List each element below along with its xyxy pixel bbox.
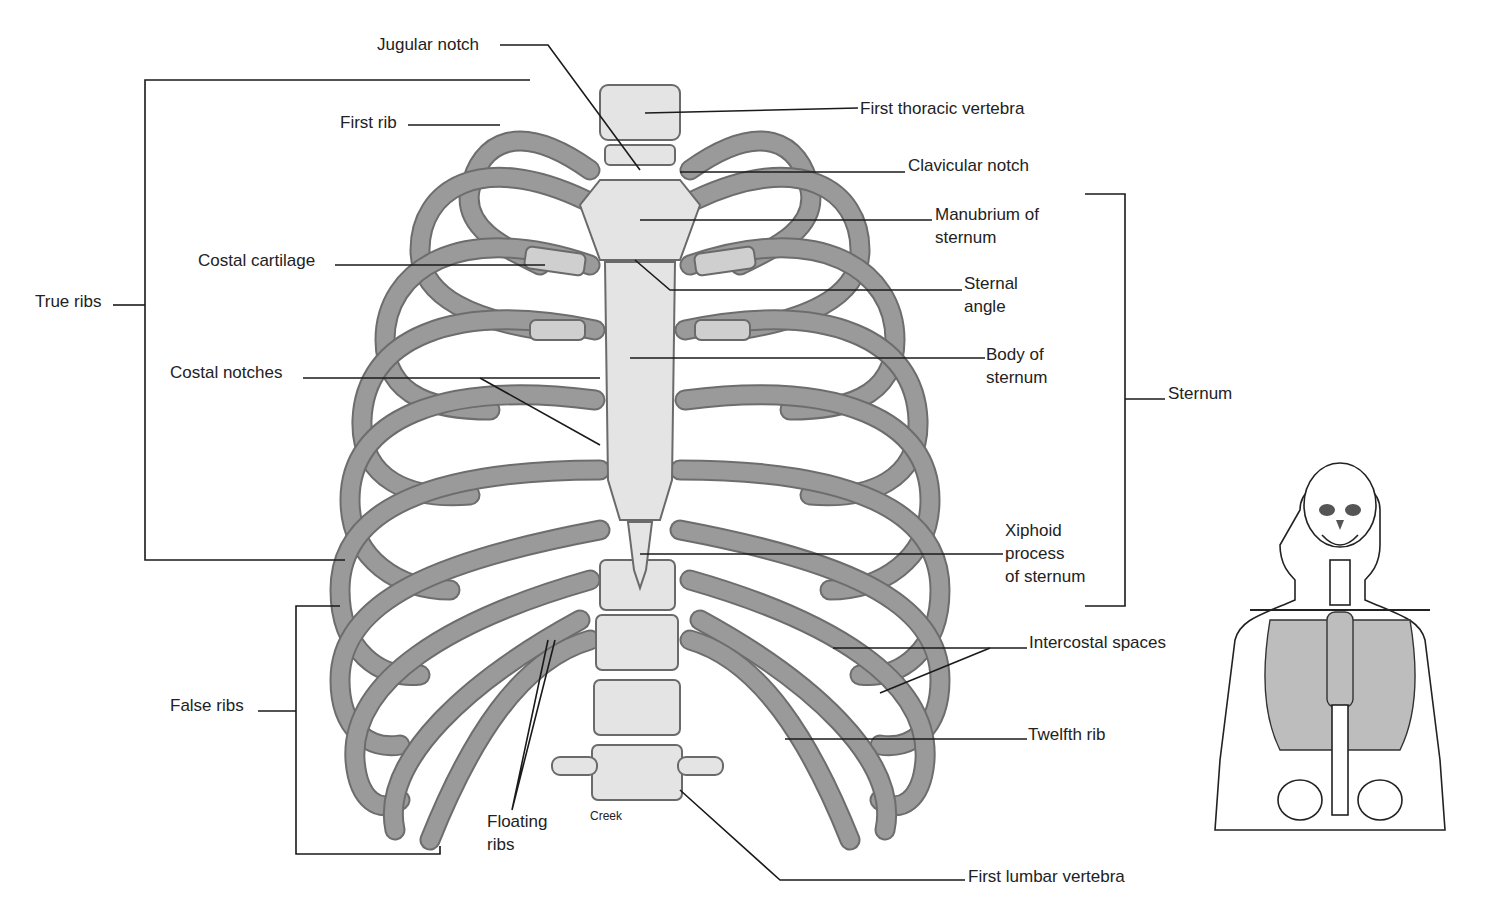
label-sternal-angle: Sternal angle	[964, 272, 1018, 318]
label-line: Manubrium of	[935, 203, 1039, 226]
label-line: of sternum	[1005, 565, 1085, 588]
label-false-ribs: False ribs	[170, 694, 244, 717]
label-line: Body of	[986, 343, 1047, 366]
label-first-rib: First rib	[340, 111, 397, 134]
left-ribs	[340, 141, 600, 840]
label-line: angle	[964, 295, 1018, 318]
label-body-of-sternum: Body of sternum	[986, 343, 1047, 389]
rib-cage-illustration	[340, 85, 940, 840]
right-ribs	[680, 141, 940, 840]
label-manubrium-of-sternum: Manubrium of sternum	[935, 203, 1039, 249]
label-line: process	[1005, 542, 1085, 565]
artist-credit: Creek	[590, 809, 622, 823]
label-first-thoracic-vertebra: First thoracic vertebra	[860, 97, 1024, 120]
label-clavicular-notch: Clavicular notch	[908, 154, 1029, 177]
label-costal-notches: Costal notches	[170, 361, 282, 384]
inset-skeleton	[1215, 463, 1445, 830]
label-line: sternum	[986, 366, 1047, 389]
label-line: sternum	[935, 226, 1039, 249]
label-first-lumbar-vertebra: First lumbar vertebra	[968, 865, 1125, 888]
label-xiphoid-process: Xiphoid process of sternum	[1005, 519, 1085, 588]
label-line: Floating	[487, 810, 547, 833]
label-line: Sternal	[964, 272, 1018, 295]
label-twelfth-rib: Twelfth rib	[1028, 723, 1105, 746]
label-true-ribs: True ribs	[35, 290, 101, 313]
thoracic-cage-diagram	[0, 0, 1499, 918]
label-sternum: Sternum	[1168, 382, 1232, 405]
label-intercostal-spaces: Intercostal spaces	[1029, 631, 1166, 654]
label-line: ribs	[487, 833, 547, 856]
label-floating-ribs: Floating ribs	[487, 810, 547, 856]
label-costal-cartilage: Costal cartilage	[198, 249, 315, 272]
label-line: Xiphoid	[1005, 519, 1085, 542]
label-jugular-notch: Jugular notch	[377, 33, 479, 56]
